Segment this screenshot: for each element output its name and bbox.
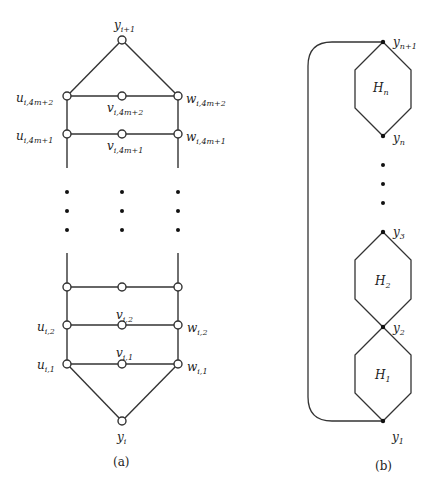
label-w-i-1: wi,1 (187, 361, 207, 376)
label-u-i-1: ui,1 (37, 359, 55, 374)
label-y-i-plus-1: yi+1 (114, 19, 135, 34)
label-y-n: yn (393, 132, 405, 147)
label-u-i-2: ui,2 (37, 321, 55, 336)
label-w-i-2: wi,2 (187, 322, 207, 337)
label-u-i-4m2: ui,4m+2 (16, 92, 53, 107)
panel-a-ellipsis-dots (65, 190, 180, 232)
label-w-i-4m2: wi,4m+2 (186, 93, 226, 108)
label-y-1: y1 (392, 431, 404, 446)
label-y-3: y3 (393, 226, 405, 241)
label-y-n-plus-1: yn+1 (393, 36, 417, 51)
caption-a: (a) (113, 455, 130, 469)
label-y-2: y2 (393, 322, 405, 337)
label-v-i-1: vi,1 (116, 347, 133, 362)
panel-b-vertices (381, 40, 385, 423)
diagram-canvas (0, 0, 435, 488)
label-u-i-4m1: ui,4m+1 (16, 130, 53, 145)
label-H-1: H1 (375, 369, 391, 384)
label-H-2: H2 (375, 275, 391, 290)
label-v-i-4m2: vi,4m+2 (107, 102, 143, 117)
label-H-n: Hn (373, 82, 389, 97)
label-y-i: yi (117, 431, 126, 446)
label-v-i-2: vi,2 (116, 309, 133, 324)
caption-b: (b) (375, 459, 392, 473)
label-w-i-4m1: wi,4m+1 (186, 131, 226, 146)
label-v-i-4m1: vi,4m+1 (107, 140, 143, 155)
